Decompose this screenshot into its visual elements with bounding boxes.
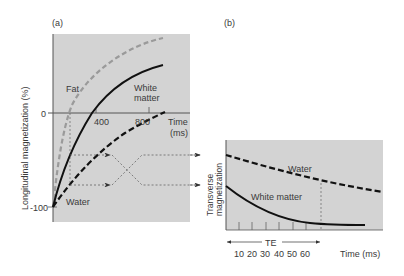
water-label: Water bbox=[66, 197, 90, 207]
te-tick-20: 20 bbox=[247, 249, 257, 259]
x-tick-400: 400 bbox=[94, 117, 109, 127]
white-matter-decay-label: White matter bbox=[251, 192, 302, 202]
white-matter-label-2: matter bbox=[134, 93, 160, 103]
transverse-label-2: magnetization bbox=[214, 163, 224, 216]
panel-b: (b) Water White matter Transverse magnet… bbox=[205, 18, 383, 259]
x-label-ms: (ms) bbox=[170, 128, 188, 138]
white-matter-label-1: White bbox=[134, 83, 157, 93]
panel-b-label: (b) bbox=[224, 18, 235, 28]
te-tick-10: 10 bbox=[234, 249, 244, 259]
y-tick-0: 0 bbox=[41, 109, 46, 119]
panel-b-x-label: Time (ms) bbox=[340, 249, 380, 259]
panel-a-label: (a) bbox=[52, 18, 63, 28]
te-tick-40: 40 bbox=[274, 249, 284, 259]
y-tick-minus100: -100 bbox=[30, 203, 48, 213]
x-label-time: Time bbox=[168, 117, 188, 127]
te-tick-30: 30 bbox=[260, 249, 270, 259]
te-tick-50: 50 bbox=[287, 249, 297, 259]
fat-label: Fat bbox=[66, 84, 80, 94]
te-tick-60: 60 bbox=[300, 249, 310, 259]
y-axis-label: Longitudinal magnetization (%) bbox=[20, 86, 30, 210]
mri-relaxation-diagram: (a) 0 -100 400 800 Time (ms) Fat White m… bbox=[0, 0, 404, 276]
te-label: TE bbox=[265, 238, 277, 248]
panel-a: (a) 0 -100 400 800 Time (ms) Fat White m… bbox=[20, 18, 200, 222]
panel-b-background bbox=[226, 140, 383, 230]
x-tick-800: 800 bbox=[135, 117, 150, 127]
water-decay-label: Water bbox=[288, 164, 312, 174]
